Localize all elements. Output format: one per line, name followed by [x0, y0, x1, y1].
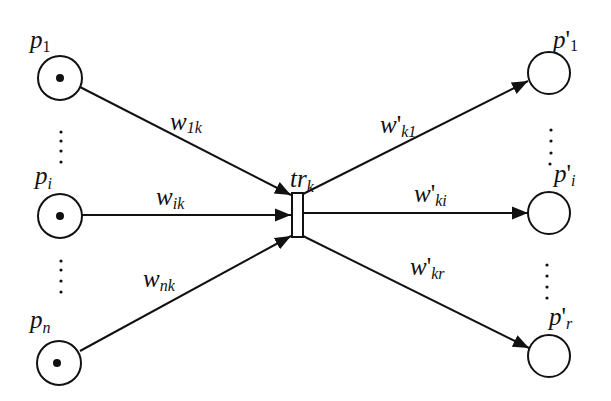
place-label: p'i [552, 160, 575, 189]
ellipsis-left-upper-icon [59, 130, 62, 163]
petri-net-diagram: trk p1 pi pn p'1 p'i p'r w1k wik wnk w'k… [0, 0, 611, 401]
place-label: p'1 [551, 26, 578, 54]
place-circle[interactable] [528, 335, 570, 377]
arc-pn-to-trk [80, 236, 291, 351]
ellipsis-left-lower-icon [59, 259, 62, 293]
weight-label-wki: w'ki [414, 180, 447, 209]
output-place-p1prime[interactable]: p'1 [528, 26, 578, 94]
token-dot-icon [56, 74, 64, 82]
place-label: p'r [547, 303, 573, 332]
transition-trk[interactable]: trk [290, 165, 315, 237]
weight-label-wik: wik [156, 183, 185, 212]
weight-label-wk1: w'k1 [380, 111, 416, 140]
transition-label: trk [290, 165, 315, 195]
input-place-pn[interactable]: pn [28, 306, 81, 385]
weight-label-wkr: w'kr [410, 253, 445, 282]
place-label: pi [33, 162, 52, 192]
output-arcs [303, 81, 529, 348]
place-label: p1 [28, 26, 51, 55]
place-circle[interactable] [528, 52, 570, 94]
token-dot-icon [56, 212, 64, 220]
weight-label-wnk: wnk [143, 265, 176, 294]
ellipsis-right-lower-icon [545, 263, 548, 299]
input-place-pi[interactable]: pi [33, 162, 82, 238]
output-place-prprime[interactable]: p'r [528, 303, 573, 377]
arc-p1-to-trk [80, 87, 291, 195]
token-dot-icon [53, 359, 61, 367]
input-place-p1[interactable]: p1 [28, 26, 82, 100]
place-label: pn [28, 306, 51, 336]
transition-bar[interactable] [292, 193, 303, 237]
ellipsis-right-upper-icon [548, 128, 552, 165]
place-circle[interactable] [528, 192, 570, 234]
output-place-piprime[interactable]: p'i [528, 160, 575, 234]
weight-label-w1k: w1k [170, 108, 203, 136]
